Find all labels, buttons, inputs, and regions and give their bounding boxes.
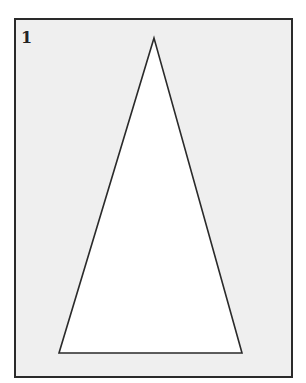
triangle-diagram	[0, 0, 306, 383]
triangle-shape	[59, 38, 242, 353]
figure-number-label: 1	[21, 28, 32, 47]
